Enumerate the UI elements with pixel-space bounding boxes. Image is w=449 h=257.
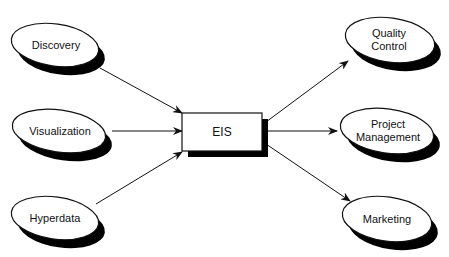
node-marketing-label: Marketing	[344, 209, 430, 229]
eis-diagram: Discovery Visualization Hyperdata EIS Qu…	[0, 0, 449, 257]
node-discovery-label: Discovery	[15, 35, 97, 55]
node-visualization-label: Visualization	[14, 121, 106, 141]
node-quality-control-label: Quality Control	[346, 24, 432, 56]
node-hyperdata-label: Hyperdata	[14, 208, 96, 228]
arrow-eis-to-quality-control	[266, 61, 348, 122]
node-project-management-label: Project Management	[342, 115, 434, 147]
node-eis-label: EIS	[182, 113, 262, 151]
arrow-discovery-to-eis	[100, 68, 182, 113]
arrow-hyperdata-to-eis	[96, 152, 182, 204]
arrow-eis-to-marketing	[266, 144, 350, 201]
